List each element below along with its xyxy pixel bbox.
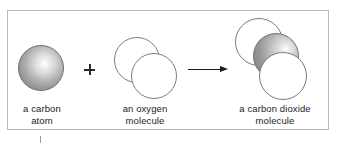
plus-icon	[84, 64, 95, 75]
reaction-arrow-icon	[188, 64, 230, 74]
diagram-stage: a carbon atom an oxygen molecule a carbo…	[0, 0, 340, 146]
co2-oxygen-front-sphere	[259, 52, 307, 100]
carbon-atom-label: a carbon atom	[6, 103, 78, 126]
figure-canvas: a carbon atom an oxygen molecule a carbo…	[0, 0, 340, 146]
carbon-atom-sphere	[18, 45, 64, 91]
oxygen-atom-front-sphere	[131, 53, 177, 99]
arrow-shaft	[188, 69, 222, 70]
page-tick-mark	[40, 136, 41, 143]
plus-icon-vertical-bar	[89, 64, 91, 75]
arrow-head	[220, 66, 228, 72]
carbon-dioxide-molecule-label: a carbon dioxide molecule	[222, 103, 328, 126]
oxygen-molecule-label: an oxygen molecule	[108, 103, 182, 126]
